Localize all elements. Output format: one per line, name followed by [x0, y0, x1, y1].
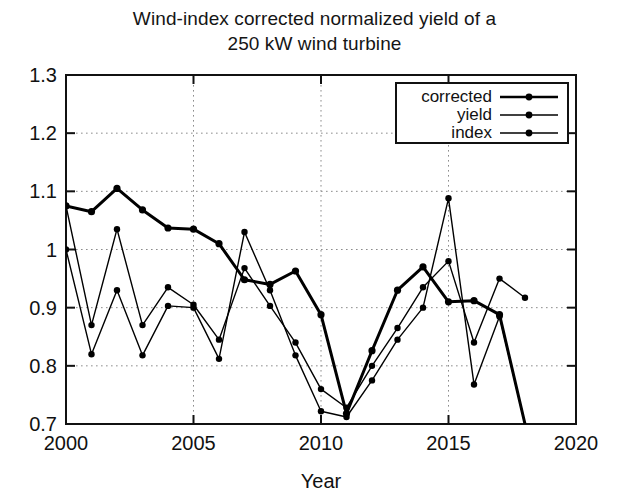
data-point-index — [318, 408, 324, 414]
data-point-yield — [241, 265, 247, 271]
data-point-corrected — [368, 347, 375, 354]
series-yield — [63, 203, 528, 411]
data-point-yield — [394, 325, 400, 331]
data-point-yield — [267, 303, 273, 309]
data-point-yield — [369, 363, 375, 369]
series-line-corrected — [66, 188, 525, 424]
y-tick-label: 1 — [46, 239, 57, 261]
data-series-layer — [62, 185, 528, 424]
line-chart-plot: 0.70.80.911.11.21.3 20002005201020152020… — [0, 0, 629, 504]
data-point-yield — [471, 339, 477, 345]
series-line-index — [66, 198, 525, 424]
chart-legend: correctedyieldindex — [396, 83, 568, 143]
y-axis-tick-labels: 0.70.80.911.11.21.3 — [29, 64, 57, 435]
data-point-yield — [114, 226, 120, 232]
data-point-index — [241, 229, 247, 235]
data-point-index — [471, 381, 477, 387]
data-point-index — [369, 377, 375, 383]
y-tick-label: 1.1 — [29, 180, 57, 202]
data-point-yield — [165, 284, 171, 290]
legend-label-corrected: corrected — [421, 87, 492, 106]
data-point-yield — [292, 339, 298, 345]
data-point-corrected — [419, 263, 426, 270]
data-point-index — [88, 351, 94, 357]
data-point-index — [394, 336, 400, 342]
data-point-corrected — [164, 224, 171, 231]
y-tick-label: 1.3 — [29, 64, 57, 86]
x-tick-label: 2020 — [554, 432, 599, 454]
data-point-yield — [522, 295, 528, 301]
legend-marker-corrected — [526, 94, 533, 101]
data-point-yield — [216, 336, 222, 342]
data-point-corrected — [470, 297, 477, 304]
legend-label-index: index — [451, 123, 492, 142]
legend-marker-index — [526, 130, 533, 137]
x-tick-label: 2005 — [171, 432, 216, 454]
series-index — [63, 195, 525, 424]
data-point-corrected — [292, 267, 299, 274]
data-point-yield — [139, 322, 145, 328]
y-tick-label: 0.9 — [29, 297, 57, 319]
data-point-corrected — [445, 298, 452, 305]
data-point-yield — [63, 203, 69, 209]
data-point-corrected — [139, 206, 146, 213]
data-point-corrected — [215, 240, 222, 247]
data-point-index — [114, 287, 120, 293]
data-point-yield — [496, 275, 502, 281]
data-point-yield — [343, 405, 349, 411]
chart-figure: Wind-index corrected normalized yield of… — [0, 0, 629, 504]
data-point-index — [165, 303, 171, 309]
data-point-index — [420, 304, 426, 310]
data-point-corrected — [317, 311, 324, 318]
data-point-index — [343, 414, 349, 420]
x-axis-tick-labels: 20002005201020152020 — [44, 432, 599, 454]
data-point-yield — [88, 322, 94, 328]
data-point-corrected — [88, 208, 95, 215]
data-point-yield — [318, 386, 324, 392]
data-point-yield — [420, 284, 426, 290]
data-point-yield — [445, 258, 451, 264]
x-tick-label: 2010 — [299, 432, 344, 454]
x-tick-label: 2000 — [44, 432, 89, 454]
data-point-index — [496, 313, 502, 319]
series-corrected — [62, 185, 525, 424]
data-point-index — [445, 195, 451, 201]
y-tick-label: 1.2 — [29, 122, 57, 144]
legend-label-yield: yield — [457, 105, 492, 124]
data-point-index — [216, 356, 222, 362]
data-point-corrected — [113, 185, 120, 192]
x-axis-title: Year — [301, 470, 342, 492]
y-tick-label: 0.8 — [29, 355, 57, 377]
data-point-index — [190, 304, 196, 310]
x-tick-label: 2015 — [426, 432, 471, 454]
data-point-index — [63, 246, 69, 252]
data-point-corrected — [394, 287, 401, 294]
data-point-corrected — [190, 226, 197, 233]
legend-marker-yield — [526, 112, 533, 119]
data-point-index — [267, 287, 273, 293]
series-line-yield — [66, 206, 525, 408]
data-point-index — [292, 352, 298, 358]
data-point-index — [139, 352, 145, 358]
